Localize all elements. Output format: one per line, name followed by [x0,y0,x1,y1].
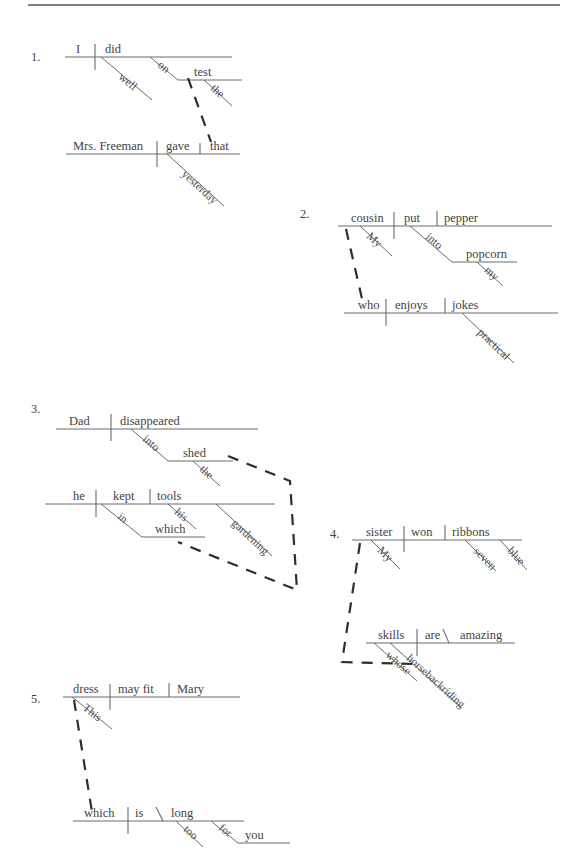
main-clause: sisterwonribbonsMysevenblue [352,525,528,572]
worksheet-page: 1.IdidwellontesttheMrs. Freemangavethaty… [0,0,584,852]
verb-word: disappeared [120,414,180,428]
subject-word: he [73,489,85,503]
subject-word: who [358,298,380,312]
modifier-word: too [182,823,201,842]
verb-word: put [404,211,421,225]
object-word: that [210,139,229,153]
verb-word: may fit [118,682,154,696]
predicate-complement-slash [156,807,163,821]
modifier-word: into [424,230,446,251]
verb-word: enjoys [395,298,428,312]
main-clause: Daddisappearedintoshedthe [56,414,258,486]
modifier-word: the [209,82,227,100]
modifier-word: on [156,58,173,75]
relative-clause: whichislongtooforyou [73,806,290,847]
diagram-item-3: 3.Daddisappearedintoshedthehekepttoolsin… [31,402,297,590]
diagram-item-5: 5.dressmay fitMaryThiswhichislongtoofory… [31,682,290,847]
relative-clause: whoenjoysjokespractical [344,298,558,363]
object-word: jokes [451,298,479,312]
item-number-label: 4. [330,527,339,541]
verb-word: did [105,42,122,56]
object-of-preposition-word: which [155,522,186,536]
main-clause: dressmay fitMaryThis [63,682,240,729]
relative-clause: skillsareamazingwhosehorsebackriding [366,628,515,711]
diagram-item-4: 4.sisterwonribbonsMysevenblueskillsaream… [330,525,528,711]
predicate-complement-slash [443,629,449,643]
sentence-diagram-canvas: 1.IdidwellontesttheMrs. Freemangavethaty… [0,0,584,852]
relative-clause: hekepttoolsinhisgardeningwhich [45,489,275,558]
complement-word: long [171,806,194,820]
subject-word: which [84,806,115,820]
complement-word: amazing [460,628,503,642]
modifier-word: practical [475,326,513,363]
object-word: tools [157,489,181,503]
diagram-item-1: 1.IdidwellontesttheMrs. Freemangavethaty… [31,42,242,207]
modifier-word: gardening [229,517,272,558]
relative-clause: Mrs. Freemangavethatyesterday [66,139,240,207]
subject-word: I [76,42,80,56]
verb-word: kept [113,489,135,503]
item-number-label: 1. [31,50,40,64]
verb-word: is [135,806,143,820]
subject-word: sister [366,525,393,539]
main-clause: cousinputpepperMyintopopcornmy [338,211,552,286]
main-clause: Ididwellontestthe [65,42,242,106]
clause-connector-dashed [346,229,363,303]
modifier-word: for [217,821,235,839]
modifier-word: into [141,432,163,453]
modifier-word: seven [472,545,499,572]
modifier-word: blue [506,544,528,567]
item-number-label: 5. [31,692,40,706]
subject-word: Mrs. Freeman [73,139,144,153]
object-of-preposition-word: test [194,65,212,79]
item-number-label: 3. [31,402,40,416]
object-word: pepper [444,211,479,225]
subject-word: skills [378,628,405,642]
subject-word: Dad [69,414,91,428]
object-word: Mary [177,682,205,696]
modifier-word: yesterday [179,168,220,207]
verb-word: gave [166,139,190,153]
modifier-word: in [116,510,131,525]
clause-connector-dashed [188,78,211,142]
object-of-preposition-word: you [245,828,265,842]
verb-word: won [411,525,433,539]
modifier-word: my [482,264,502,284]
subject-word: cousin [351,211,384,225]
modifier-word: horsebackriding [404,652,468,711]
object-word: ribbons [452,525,490,539]
object-of-preposition-word: shed [183,446,207,460]
diagram-item-2: 2.cousinputpepperMyintopopcornmywhoenjoy… [300,207,558,363]
subject-word: dress [73,682,99,696]
verb-word: are [425,628,441,642]
modifier-word: the [198,463,216,481]
object-of-preposition-word: popcorn [466,247,508,261]
item-number-label: 2. [300,207,309,221]
